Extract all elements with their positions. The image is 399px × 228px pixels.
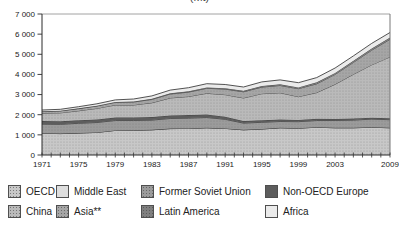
legend-swatch bbox=[265, 185, 278, 198]
y-tick-label: 0 bbox=[31, 151, 36, 160]
chart-area: 01 0002 0003 0004 0005 0006 0007 0001971… bbox=[0, 0, 399, 182]
x-axis: 1971197519791983198719911995199920032009 bbox=[33, 153, 399, 170]
legend-item-africa: Africa bbox=[265, 205, 309, 218]
legend-item-china: China bbox=[8, 205, 52, 218]
legend-label: Former Soviet Union bbox=[159, 186, 251, 197]
legend-label: Middle East bbox=[74, 186, 126, 197]
legend-swatch bbox=[265, 205, 278, 218]
area-bands bbox=[42, 33, 390, 156]
y-tick-label: 4 000 bbox=[15, 70, 36, 79]
legend-swatch bbox=[141, 205, 154, 218]
x-tick-label: 1975 bbox=[70, 160, 88, 169]
x-tick-label: 1987 bbox=[180, 160, 198, 169]
legend-swatch bbox=[56, 185, 69, 198]
legend-label: Africa bbox=[283, 206, 309, 217]
y-tick-label: 2 000 bbox=[15, 111, 36, 120]
x-tick-label: 1995 bbox=[253, 160, 271, 169]
chart-panel: (Mt) 01 0002 0003 0004 0005 0006 0007 00… bbox=[0, 0, 399, 228]
legend-label: OECD bbox=[26, 186, 55, 197]
legend-item-oecd: OECD bbox=[8, 185, 55, 198]
y-tick-label: 6 000 bbox=[15, 30, 36, 39]
legend-label: Non-OECD Europe bbox=[283, 186, 369, 197]
x-tick-label: 2003 bbox=[326, 160, 344, 169]
x-tick-label: 1979 bbox=[106, 160, 124, 169]
y-axis: 01 0002 0003 0004 0005 0006 0007 000 bbox=[15, 10, 42, 160]
x-tick-label: 1971 bbox=[33, 160, 51, 169]
x-tick-label: 2009 bbox=[381, 160, 399, 169]
chart-legend: OECDMiddle EastFormer Soviet UnionNon-OE… bbox=[0, 182, 399, 228]
legend-item-former-soviet-union: Former Soviet Union bbox=[141, 185, 251, 198]
x-tick-label: 1991 bbox=[216, 160, 234, 169]
stacked-area-chart: 01 0002 0003 0004 0005 0006 0007 0001971… bbox=[0, 0, 399, 178]
y-tick-label: 5 000 bbox=[15, 50, 36, 59]
y-tick-label: 1 000 bbox=[15, 131, 36, 140]
y-tick-label: 3 000 bbox=[15, 90, 36, 99]
legend-swatch bbox=[56, 205, 69, 218]
legend-label: Latin America bbox=[159, 206, 220, 217]
legend-swatch bbox=[141, 185, 154, 198]
legend-item-latin-america: Latin America bbox=[141, 205, 220, 218]
legend-swatch bbox=[8, 205, 21, 218]
legend-label: China bbox=[26, 206, 52, 217]
legend-item-non-oecd-europe: Non-OECD Europe bbox=[265, 185, 369, 198]
y-tick-label: 7 000 bbox=[15, 10, 36, 19]
legend-label: Asia** bbox=[74, 206, 101, 217]
legend-swatch bbox=[8, 185, 21, 198]
legend-item-asia: Asia** bbox=[56, 205, 101, 218]
x-tick-label: 1999 bbox=[290, 160, 308, 169]
legend-item-middle-east: Middle East bbox=[56, 185, 126, 198]
x-tick-label: 1983 bbox=[143, 160, 161, 169]
